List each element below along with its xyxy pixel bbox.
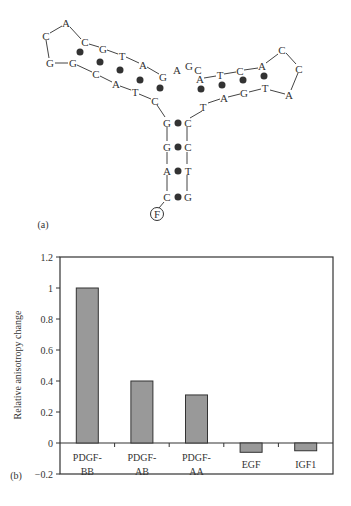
y-tick-label: 0 [48,438,53,449]
category-label: AB [135,466,149,477]
svg-text:Relative anisotropy change: Relative anisotropy change [12,310,23,419]
y-tick-label: 1.2 [41,252,54,263]
svg-text:T: T [119,50,126,62]
svg-text:C: C [81,36,88,48]
category-label: PDGF- [73,452,102,463]
category-label: PDGF- [182,452,211,463]
svg-text:C: C [184,141,191,153]
category-label: AA [189,466,204,477]
svg-text:A: A [173,64,181,76]
plot-area: −0.200.20.40.60.811.2PDGF-BBPDGF-ABPDGF-… [35,252,333,480]
svg-text:G: G [163,117,171,129]
svg-text:G: G [184,191,192,203]
svg-text:C: C [163,191,170,203]
category-label: IGF1 [295,459,316,470]
panel-label-a: (a) [37,219,48,231]
bar-pdgf-ab [131,381,153,443]
svg-text:G: G [159,71,167,83]
bar-pdgf-aa [186,395,208,443]
svg-text:G: G [69,57,77,69]
svg-text:A: A [139,59,147,71]
svg-text:G: G [185,60,193,72]
aptamer-structure-diagram: C A C G G G T A G C A T C A G C A T C A … [0,0,351,240]
svg-text:A: A [196,73,204,85]
svg-text:G: G [240,87,248,99]
panel-label-b: (b) [10,470,22,482]
bar-pdgf-bb [76,288,98,443]
svg-text:A: A [62,17,70,29]
backbone-bonds [46,26,298,208]
category-label: EGF [242,459,261,470]
anisotropy-bar-chart: Relative anisotropy change −0.200.20.40.… [0,240,351,506]
nucleotides: C A C G G G T A G C A T C A G C A T C A … [42,17,302,203]
svg-text:T: T [262,82,269,94]
category-label: BB [81,466,95,477]
y-tick-label: 0.2 [41,407,54,418]
category-label: PDGF- [127,452,156,463]
bar-egf [240,443,262,452]
svg-text:G: G [99,43,107,55]
svg-text:T: T [185,165,192,177]
y-tick-label: 1 [48,283,53,294]
y-tick-label: 0.4 [41,376,54,387]
svg-text:A: A [258,60,266,72]
svg-text:C: C [295,63,302,75]
svg-text:C: C [92,68,99,80]
fluorophore-label: F [151,208,164,221]
svg-text:G: G [163,141,171,153]
svg-text:C: C [42,30,49,42]
svg-text:A: A [285,89,293,101]
svg-text:C: C [184,117,191,129]
svg-text:G: G [46,57,54,69]
svg-text:A: A [112,78,120,90]
svg-text:C: C [151,95,158,107]
y-axis-title: Relative anisotropy change [12,310,23,419]
bar-igf1 [295,443,317,451]
svg-text:T: T [217,69,224,81]
y-tick-label: 0.8 [41,314,54,325]
svg-text:T: T [200,101,207,113]
svg-text:C: C [278,44,285,56]
svg-text:T: T [132,86,139,98]
y-tick-label: 0.6 [41,345,54,356]
svg-text:F: F [154,208,160,220]
svg-text:A: A [220,92,228,104]
svg-text:A: A [163,165,171,177]
svg-text:C: C [236,65,243,77]
y-tick-label: −0.2 [35,469,53,480]
